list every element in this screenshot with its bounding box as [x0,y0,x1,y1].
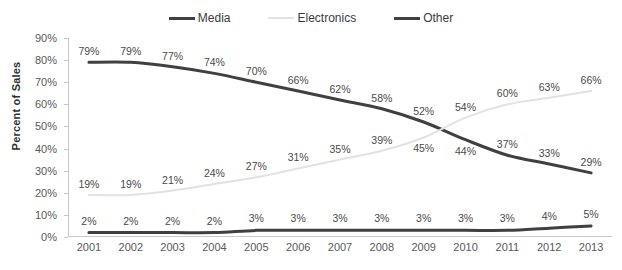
x-tick-label: 2008 [370,241,394,253]
y-tick-label: 40% [35,143,57,155]
y-tick-label: 20% [35,187,57,199]
y-tick-mark: 0% [64,237,68,238]
x-tick-label: 2004 [202,241,226,253]
x-tick-label: 2003 [160,241,184,253]
x-tick-label: 2006 [286,241,310,253]
legend-line-icon [169,17,195,20]
x-tick-label: 2011 [496,241,520,253]
x-tick-label: 2012 [537,241,561,253]
legend-line-icon [394,17,420,20]
series-line-electronics [89,91,591,195]
y-tick-label: 70% [35,76,57,88]
chart-legend: MediaElectronicsOther [0,8,622,28]
y-axis-title: Percent of Sales [10,36,22,176]
y-tick-label: 30% [35,165,57,177]
sales-mix-line-chart: MediaElectronicsOther Percent of Sales 9… [0,0,622,270]
y-tick-label: 80% [35,54,57,66]
x-tick-label: 2001 [77,241,101,253]
legend-label: Media [198,11,231,25]
series-line-other [89,226,591,233]
x-tick-label: 2005 [244,241,268,253]
y-tick-label: 50% [35,120,57,132]
legend-label: Electronics [297,11,356,25]
x-tick-label: 2009 [411,241,435,253]
legend-entry-electronics[interactable]: Electronics [268,11,356,25]
legend-entry-media[interactable]: Media [169,11,231,25]
y-tick-label: 0% [41,231,57,243]
x-tick-label: 2007 [328,241,352,253]
legend-line-icon [268,17,294,19]
x-tick-label: 2002 [119,241,143,253]
y-tick-label: 10% [35,209,57,221]
plot-area: 90%80%70%60%50%40%30%20%10%0% 2001200220… [68,38,612,237]
x-tick-label: 2013 [579,241,603,253]
x-tick-label: 2010 [453,241,477,253]
legend-entry-other[interactable]: Other [394,11,453,25]
series-lines [68,38,612,237]
series-line-media [89,62,591,173]
y-tick-label: 60% [35,98,57,110]
legend-label: Other [423,11,453,25]
y-tick-label: 90% [35,32,57,44]
